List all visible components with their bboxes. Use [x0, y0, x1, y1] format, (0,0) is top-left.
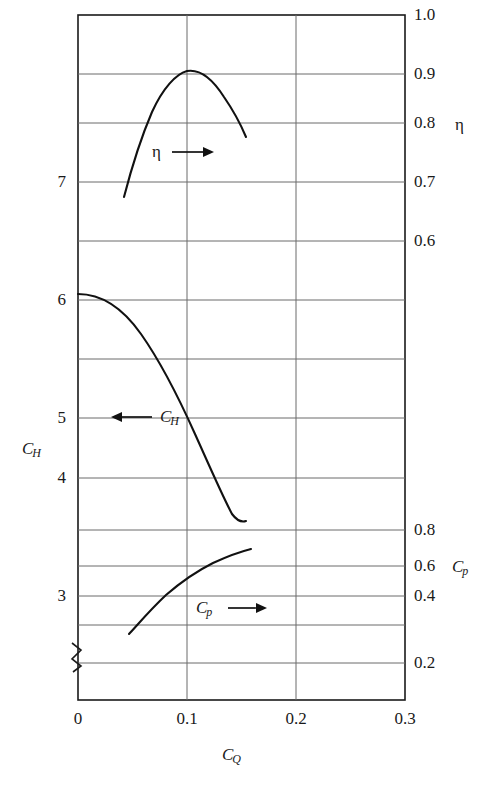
- ch-curve-label: CH: [160, 407, 179, 429]
- plot-frame: [78, 15, 405, 700]
- right-cp-tick-0.8: 0.8: [414, 521, 435, 538]
- left-tick-7: 7: [38, 173, 66, 190]
- right-eta-tick-0.9: 0.9: [414, 65, 435, 82]
- figure-container: 7 6 5 4 3 1.0 0.9 0.8 0.7 0.6 0.8 0.6 0.…: [0, 0, 497, 788]
- right-cp-tick-0.2: 0.2: [414, 654, 435, 671]
- left-axis-title-sub: H: [32, 446, 41, 460]
- right-cp-axis-title-sub: p: [462, 564, 468, 578]
- ch-annotation-arrow-icon: [111, 412, 152, 422]
- right-eta-axis-title: η: [455, 115, 464, 135]
- right-cp-axis-title: Cp: [452, 557, 468, 579]
- x-axis-title: CQ: [222, 745, 241, 767]
- cp-curve-label: Cp: [196, 598, 212, 620]
- cp-curve-label-sub: p: [206, 605, 212, 619]
- x-axis-title-sub: Q: [232, 752, 241, 766]
- x-tick-0.3: 0.3: [385, 710, 425, 727]
- right-eta-tick-0.8: 0.8: [414, 114, 435, 131]
- axis-break-zigzag: [72, 643, 81, 672]
- cp-annotation-arrow-icon: [228, 603, 267, 613]
- right-eta-tick-1.0: 1.0: [414, 6, 435, 23]
- eta-curve-label: η: [152, 142, 161, 162]
- eta-annotation-arrow-icon: [172, 147, 214, 157]
- x-tick-0: 0: [58, 710, 98, 727]
- right-eta-tick-0.6: 0.6: [414, 232, 435, 249]
- left-tick-4: 4: [38, 469, 66, 486]
- horizontal-gridlines: [78, 74, 405, 663]
- ch-curve-label-sub: H: [170, 414, 179, 428]
- left-tick-6: 6: [38, 291, 66, 308]
- eta-curve-label-symbol: η: [152, 142, 161, 161]
- right-eta-tick-0.7: 0.7: [414, 173, 435, 190]
- curve-cp: [129, 549, 251, 634]
- x-tick-0.1: 0.1: [167, 710, 207, 727]
- left-axis-title: CH: [22, 439, 41, 461]
- x-tick-0.2: 0.2: [276, 710, 316, 727]
- left-tick-3: 3: [38, 587, 66, 604]
- right-cp-tick-0.4: 0.4: [414, 587, 435, 604]
- left-tick-5: 5: [38, 409, 66, 426]
- right-cp-tick-0.6: 0.6: [414, 557, 435, 574]
- curve-eta: [124, 71, 246, 197]
